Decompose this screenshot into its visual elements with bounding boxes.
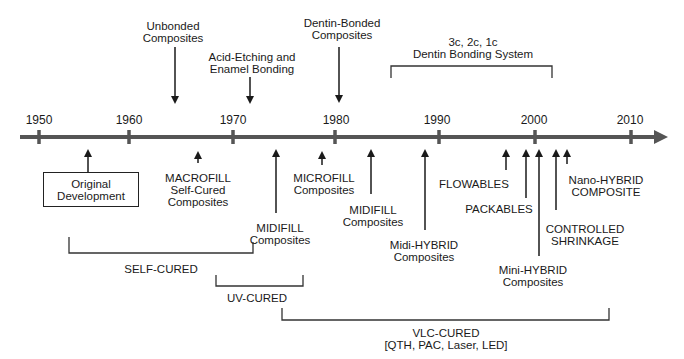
label-midifill-2: MIDIFILL Composites — [343, 204, 404, 228]
label-line: Mini-HYBRID — [499, 264, 567, 276]
label-line: Unbonded — [143, 20, 204, 32]
label-line: MICROFILL — [293, 172, 354, 184]
year-label-1970: 1970 — [220, 113, 247, 127]
label-unbonded-composites: Unbonded Composites — [143, 20, 204, 44]
label-line: Nano-HYBRID — [569, 174, 644, 186]
label-line: COMPOSITE — [569, 186, 644, 198]
year-label-1980: 1980 — [323, 113, 350, 127]
label-acid-etching: Acid-Etching and Enamel Bonding — [209, 51, 296, 75]
label-nano-hybrid: Nano-HYBRID COMPOSITE — [569, 174, 644, 198]
label-dentin-bonded-composites: Dentin-Bonded Composites — [304, 17, 381, 41]
original-development-box: Original Development — [43, 172, 139, 207]
label-flowables: FLOWABLES — [439, 178, 509, 190]
label-line: Composites — [390, 251, 458, 263]
label-controlled-shrinkage: CONTROLLED SHRINKAGE — [546, 223, 625, 247]
label-line: [QTH, PAC, Laser, LED] — [384, 339, 507, 351]
label-line: Enamel Bonding — [209, 63, 296, 75]
label-line: SHRINKAGE — [546, 235, 625, 247]
timeline-axis — [20, 130, 668, 144]
bracket-vlc-cured — [282, 308, 609, 320]
bracket-uv-cured — [216, 275, 303, 286]
label-macrofill: MACROFILL Self-Cured Composites — [165, 172, 231, 208]
bracket-self-cured — [69, 237, 253, 253]
label-line: 3c, 2c, 1c — [413, 36, 533, 48]
label-line: VLC-CURED — [384, 327, 507, 339]
label-line: Composites — [499, 276, 567, 288]
label-line: Self-Cured — [165, 184, 231, 196]
label-midifill-1: MIDIFILL Composites — [250, 222, 311, 246]
label-line: Composites — [304, 29, 381, 41]
label-line: Original — [57, 178, 125, 190]
year-label-1990: 1990 — [424, 113, 451, 127]
label-self-cured: SELF-CURED — [124, 263, 197, 275]
label-line: Composites — [343, 216, 404, 228]
label-microfill: MICROFILL Composites — [293, 172, 354, 196]
year-label-2010: 2010 — [617, 113, 644, 127]
label-line: Composites — [250, 234, 311, 246]
bracket-dentin-bonding-system — [391, 66, 552, 78]
label-line: CONTROLLED — [546, 223, 625, 235]
label-line: MIDIFILL — [343, 204, 404, 216]
label-packables: PACKABLES — [465, 203, 533, 215]
label-midi-hybrid: Midi-HYBRID Composites — [390, 239, 458, 263]
label-line: Acid-Etching and — [209, 51, 296, 63]
label-dentin-bonding-system: 3c, 2c, 1c Dentin Bonding System — [413, 36, 533, 60]
year-label-1960: 1960 — [116, 113, 143, 127]
label-line: Composites — [143, 32, 204, 44]
label-line: Development — [57, 190, 125, 202]
label-mini-hybrid: Mini-HYBRID Composites — [499, 264, 567, 288]
label-vlc-cured: VLC-CURED [QTH, PAC, Laser, LED] — [384, 327, 507, 351]
label-uv-cured: UV-CURED — [227, 292, 287, 304]
year-label-2000: 2000 — [521, 113, 548, 127]
label-line: Dentin Bonding System — [413, 48, 533, 60]
year-label-1950: 1950 — [26, 113, 53, 127]
axis-arrowhead-icon — [654, 130, 668, 144]
label-line: Dentin-Bonded — [304, 17, 381, 29]
label-line: Midi-HYBRID — [390, 239, 458, 251]
label-line: Composites — [165, 196, 231, 208]
label-line: Composites — [293, 184, 354, 196]
label-line: MIDIFILL — [250, 222, 311, 234]
label-line: MACROFILL — [165, 172, 231, 184]
